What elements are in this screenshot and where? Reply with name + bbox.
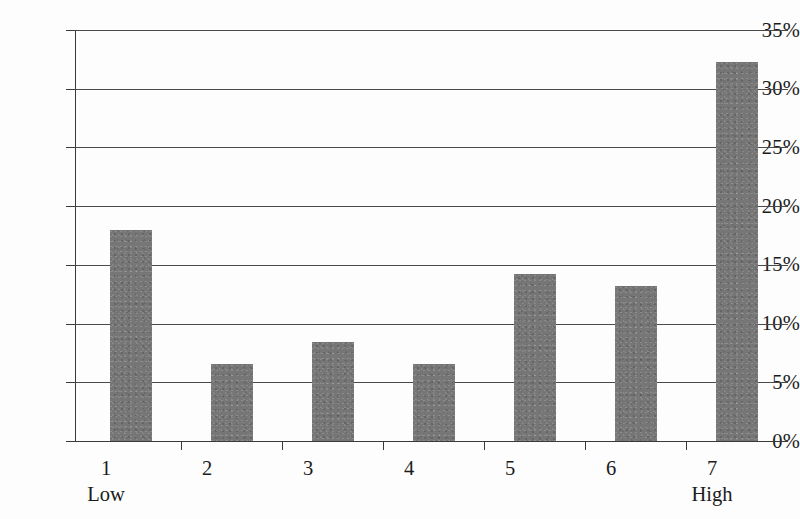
y-tick-20 [66, 206, 75, 207]
gridline-20 [75, 206, 788, 207]
bar-chart: 35% 30% 25% 20% 15% 10% 5% 0% [0, 0, 800, 519]
x-tick-boundary [383, 441, 384, 450]
bar-category-3 [312, 342, 354, 441]
y-tick-30 [66, 89, 75, 90]
gridline-15 [75, 265, 788, 266]
x-label-1: 1 [80, 457, 132, 480]
x-label-6: 6 [585, 457, 637, 480]
x-label-7: 7 [686, 457, 738, 480]
x-label-2: 2 [181, 457, 233, 480]
y-tick-25 [66, 147, 75, 148]
x-label-3: 3 [282, 457, 334, 480]
x-tick-boundary [585, 441, 586, 450]
bar-category-7 [716, 62, 758, 441]
y-tick-10 [66, 324, 75, 325]
plot-area [75, 30, 788, 441]
gridline-30 [75, 89, 788, 90]
bar-category-1 [110, 230, 152, 441]
bar-category-5 [514, 274, 556, 441]
x-tick-boundary [181, 441, 182, 450]
x-tick-boundary [686, 441, 687, 450]
x-tick-boundary [282, 441, 283, 450]
bar-category-2 [211, 364, 253, 442]
bar-category-4 [413, 364, 455, 442]
x-endpoint-label-high: High [686, 483, 738, 506]
gridline-35 [75, 30, 788, 31]
y-tick-35 [66, 30, 75, 31]
gridline-10 [75, 324, 788, 325]
y-tick-15 [66, 265, 75, 266]
x-tick-boundary [484, 441, 485, 450]
x-label-4: 4 [383, 457, 435, 480]
bar-category-6 [615, 286, 657, 441]
x-endpoint-label-low: Low [80, 483, 132, 506]
y-tick-5 [66, 382, 75, 383]
y-tick-0 [66, 441, 75, 442]
gridline-25 [75, 147, 788, 148]
x-label-5: 5 [484, 457, 536, 480]
